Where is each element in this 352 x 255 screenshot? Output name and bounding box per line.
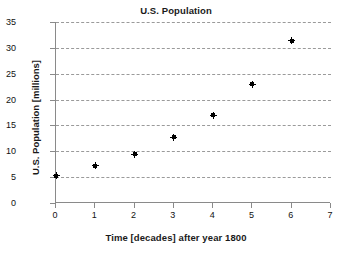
data-point xyxy=(131,151,138,158)
y-tick-label-20: 20 xyxy=(0,95,16,105)
gridline-y-30 xyxy=(56,48,331,49)
x-tick-label-1: 1 xyxy=(82,210,106,220)
data-point xyxy=(53,172,60,179)
y-axis-title: U.S. Population [millions] xyxy=(30,23,41,213)
gridline-y-35 xyxy=(56,22,331,23)
gridline-y-20 xyxy=(56,100,331,101)
plot-area xyxy=(55,22,330,203)
x-tick-mark-5 xyxy=(251,203,252,208)
x-tick-label-6: 6 xyxy=(279,210,303,220)
data-point xyxy=(210,112,217,119)
x-tick-label-4: 4 xyxy=(200,210,224,220)
chart-title: U.S. Population xyxy=(0,5,352,16)
x-tick-label-3: 3 xyxy=(161,210,185,220)
data-point xyxy=(170,134,177,141)
y-tick-label-25: 25 xyxy=(0,69,16,79)
x-tick-mark-1 xyxy=(94,203,95,208)
x-tick-mark-4 xyxy=(212,203,213,208)
x-tick-label-0: 0 xyxy=(43,210,67,220)
x-tick-mark-3 xyxy=(173,203,174,208)
x-tick-mark-7 xyxy=(330,203,331,208)
y-tick-label-15: 15 xyxy=(0,120,16,130)
gridline-y-10 xyxy=(56,151,331,152)
y-tick-label-10: 10 xyxy=(0,146,16,156)
data-point xyxy=(92,162,99,169)
gridline-y-25 xyxy=(56,74,331,75)
x-tick-label-2: 2 xyxy=(122,210,146,220)
y-tick-label-30: 30 xyxy=(0,43,16,53)
x-tick-label-7: 7 xyxy=(318,210,342,220)
y-tick-label-35: 35 xyxy=(0,17,16,27)
gridline-y-5 xyxy=(56,177,331,178)
y-tick-label-0: 0 xyxy=(0,198,16,208)
data-point xyxy=(288,37,295,44)
gridline-y-15 xyxy=(56,125,331,126)
y-tick-label-5: 5 xyxy=(0,172,16,182)
chart-figure: U.S. Population U.S. Population [million… xyxy=(0,0,352,255)
x-tick-mark-6 xyxy=(291,203,292,208)
x-tick-mark-0 xyxy=(55,203,56,208)
x-tick-mark-2 xyxy=(134,203,135,208)
data-point xyxy=(249,81,256,88)
x-axis-title: Time [decades] after year 1800 xyxy=(0,232,352,243)
x-tick-label-5: 5 xyxy=(239,210,263,220)
